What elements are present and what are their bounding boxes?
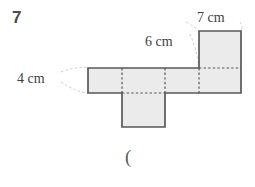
worksheet-page: 7 7 cm 6 cm 4 cm ( — [0, 0, 255, 187]
net-face-top — [199, 31, 241, 68]
dimension-label-6cm: 6 cm — [145, 34, 173, 49]
dimension-label-4cm: 4 cm — [17, 71, 45, 86]
dimension-label-7cm: 7 cm — [197, 10, 225, 25]
leader-line-7cm-right — [240, 22, 242, 31]
leader-line-6cm — [190, 34, 199, 68]
leader-line-4cm-top — [61, 68, 88, 73]
trailing-parenthesis: ( — [125, 147, 131, 166]
net-face-strip — [88, 68, 241, 93]
leader-line-4cm-bottom — [61, 82, 88, 93]
net-face-bottom — [122, 93, 165, 127]
